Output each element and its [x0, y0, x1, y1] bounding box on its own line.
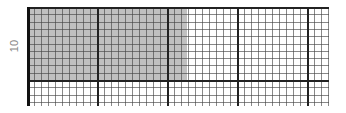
grid-chart — [27, 7, 332, 106]
shaded-region — [27, 7, 187, 80]
y-axis-label: 10 — [6, 36, 22, 56]
